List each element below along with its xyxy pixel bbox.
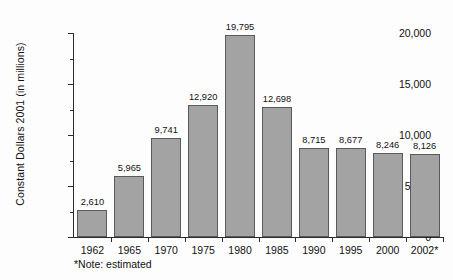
x-tick-label: 2002*: [411, 244, 438, 256]
bar-chart: Constant Dollars 2001 (in millions) 05,0…: [0, 0, 453, 280]
x-tick-mark: [185, 237, 186, 242]
bar-value-label: 2,610: [81, 197, 104, 207]
x-tick-label: 1962: [81, 244, 104, 256]
bar-value-label: 12,920: [189, 92, 217, 102]
x-tick-label: 1975: [191, 244, 214, 256]
bar: [151, 138, 181, 237]
bar: [410, 154, 440, 237]
bar: [114, 176, 144, 237]
x-tick-mark: [222, 237, 223, 242]
x-tick-label: 1980: [228, 244, 251, 256]
x-tick-label: 1990: [302, 244, 325, 256]
bar-value-label: 5,965: [118, 163, 141, 173]
bar-value-label: 9,741: [155, 125, 178, 135]
bar: [336, 148, 366, 237]
x-tick-mark: [259, 237, 260, 242]
x-tick-mark: [332, 237, 333, 242]
y-tick-major: [68, 84, 74, 85]
bar-value-label: 12,698: [263, 94, 291, 104]
y-tick-label: 20,000: [371, 27, 431, 39]
x-tick-mark: [295, 237, 296, 242]
bar: [77, 210, 107, 237]
x-tick-label: 1965: [118, 244, 141, 256]
x-tick-mark: [406, 237, 407, 242]
x-tick-mark: [111, 237, 112, 242]
y-tick-label: 15,000: [371, 78, 431, 90]
y-tick-minor: [70, 212, 74, 213]
bar: [262, 107, 292, 237]
y-tick-major: [68, 33, 74, 34]
bar-value-label: 8,715: [302, 135, 325, 145]
bar-value-label: 8,246: [376, 140, 399, 150]
bar-value-label: 8,126: [413, 141, 436, 151]
y-tick-major: [68, 186, 74, 187]
bar: [373, 153, 403, 237]
x-tick-label: 1985: [265, 244, 288, 256]
x-tick-mark: [148, 237, 149, 242]
bar-value-label: 8,677: [339, 135, 362, 145]
x-tick-mark: [443, 237, 444, 242]
bar: [188, 105, 218, 237]
y-tick-minor: [70, 161, 74, 162]
bar: [299, 148, 329, 237]
bar-value-label: 19,795: [226, 22, 254, 32]
y-tick-major: [68, 135, 74, 136]
plot-area: 05,00010,00015,00020,000 2,6105,9659,741…: [74, 33, 443, 237]
chart-footnote: *Note: estimated: [74, 258, 152, 270]
y-tick-minor: [70, 110, 74, 111]
x-tick-label: 1995: [339, 244, 362, 256]
y-tick-minor: [70, 59, 74, 60]
x-tick-mark: [369, 237, 370, 242]
y-axis-title: Constant Dollars 2001 (in millions): [14, 9, 26, 239]
x-tick-label: 2000: [376, 244, 399, 256]
y-tick-major: [68, 237, 74, 238]
x-tick-label: 1970: [155, 244, 178, 256]
bar: [225, 35, 255, 237]
